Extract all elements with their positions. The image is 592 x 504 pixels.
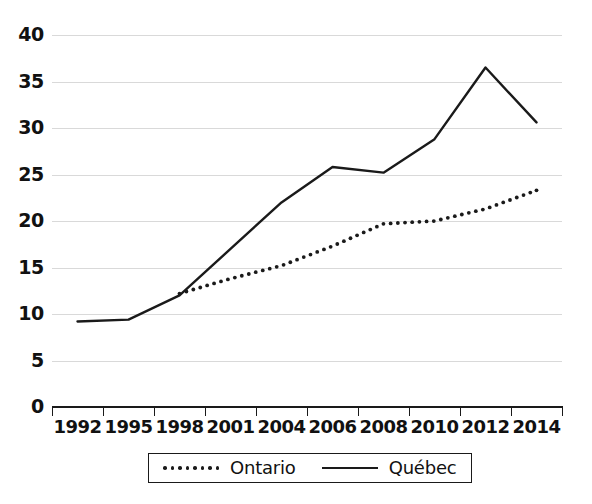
legend-label-quebec: Québec bbox=[389, 459, 457, 477]
data-point-dot bbox=[439, 218, 443, 222]
data-point-dot bbox=[501, 201, 505, 205]
data-point-dot bbox=[522, 193, 526, 197]
data-point-dot bbox=[247, 272, 251, 276]
data-point-dot bbox=[288, 260, 292, 264]
data-point-dot bbox=[355, 233, 359, 237]
data-point-dot bbox=[282, 263, 286, 267]
data-point-dot bbox=[226, 278, 230, 282]
data-point-dot bbox=[233, 276, 237, 280]
legend-entry-ontario: Ontario bbox=[163, 459, 296, 477]
series-line bbox=[78, 68, 537, 322]
data-point-dot bbox=[368, 228, 372, 232]
data-point-dot bbox=[191, 288, 195, 292]
data-point-dot bbox=[495, 203, 499, 207]
data-point-dot bbox=[410, 220, 414, 224]
data-point-dot bbox=[446, 216, 450, 220]
data-point-dot bbox=[198, 286, 202, 290]
data-point-dot bbox=[481, 208, 485, 212]
data-point-dot bbox=[295, 258, 299, 262]
data-point-dot bbox=[460, 213, 464, 217]
data-point-dot bbox=[212, 282, 216, 286]
data-point-dot bbox=[432, 219, 436, 223]
data-point-dot bbox=[302, 255, 306, 259]
data-point-dot bbox=[488, 205, 492, 209]
data-point-dot bbox=[418, 220, 422, 224]
data-point-dot bbox=[329, 245, 333, 249]
data-point-dot bbox=[342, 239, 346, 243]
data-point-dot bbox=[528, 191, 532, 195]
data-series-layer bbox=[0, 0, 592, 504]
data-point-dot bbox=[474, 209, 478, 213]
data-point-dot bbox=[535, 188, 539, 192]
chart-legend: Ontario Québec bbox=[148, 453, 472, 483]
data-point-dot bbox=[254, 270, 258, 274]
data-point-dot bbox=[322, 247, 326, 251]
data-point-dot bbox=[453, 214, 457, 218]
data-point-dot bbox=[268, 267, 272, 271]
data-point-dot bbox=[240, 274, 244, 278]
data-point-dot bbox=[275, 265, 279, 269]
data-point-dot bbox=[261, 269, 265, 273]
data-point-dot bbox=[508, 198, 512, 202]
data-point-dot bbox=[349, 236, 353, 240]
data-point-dot bbox=[382, 222, 386, 226]
data-point-dot bbox=[315, 250, 319, 254]
data-point-dot bbox=[389, 221, 393, 225]
data-point-dot bbox=[396, 221, 400, 225]
legend-label-ontario: Ontario bbox=[230, 459, 296, 477]
dotted-line-swatch-icon bbox=[163, 462, 219, 474]
solid-line-swatch-icon bbox=[322, 462, 378, 474]
data-point-dot bbox=[309, 253, 313, 257]
legend-entry-quebec: Québec bbox=[322, 459, 457, 477]
data-point-dot bbox=[362, 231, 366, 235]
line-chart: 0510152025303540 19921995199820012004200… bbox=[0, 0, 592, 504]
data-point-dot bbox=[205, 284, 209, 288]
data-point-dot bbox=[335, 242, 339, 246]
data-point-dot bbox=[515, 196, 519, 200]
data-point-dot bbox=[403, 221, 407, 225]
data-point-dot bbox=[425, 220, 429, 224]
data-point-dot bbox=[219, 280, 223, 284]
data-point-dot bbox=[467, 211, 471, 215]
data-point-dot bbox=[375, 225, 379, 229]
